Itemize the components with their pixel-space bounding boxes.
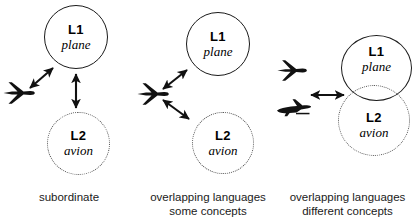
node-l2-subordinate: L2 avion	[47, 112, 110, 175]
caption-line: overlapping languages	[278, 190, 417, 204]
caption-some-concepts: overlapping languages some concepts	[138, 190, 278, 219]
node-l1-some-concepts: L1 plane	[186, 12, 250, 76]
caption-line: different concepts	[278, 204, 417, 218]
airplane-top-view-icon	[2, 80, 36, 106]
caption-subordinate: subordinate	[0, 190, 138, 204]
node-lang-label: L2	[48, 129, 109, 143]
node-l1-different-concepts: L1 plane	[341, 35, 412, 101]
node-lang-label: L2	[193, 129, 253, 143]
caption-line: subordinate	[0, 190, 138, 204]
panel-overlapping-some-concepts: L1 plane L2 avion overlapping languages …	[138, 0, 278, 224]
node-word-label: avion	[193, 144, 253, 158]
node-lang-label: L1	[187, 30, 249, 44]
node-l1-subordinate: L1 plane	[44, 5, 108, 69]
node-lang-label: L1	[342, 45, 411, 59]
node-word-label: plane	[45, 38, 107, 52]
bilingual-model-diagram: L1 plane L2 avion subordinate L1 plane	[0, 0, 417, 224]
airplane-top-view-icon	[136, 81, 170, 107]
caption-different-concepts: overlapping languages different concepts	[278, 190, 417, 219]
node-word-label: avion	[48, 144, 109, 158]
panel-overlapping-different-concepts: L2 avion L1 plane overlapping languages	[278, 0, 417, 224]
panel-subordinate: L1 plane L2 avion subordinate	[0, 0, 138, 224]
node-lang-label: L2	[339, 111, 409, 125]
caption-line: some concepts	[138, 204, 278, 218]
node-lang-label: L1	[45, 23, 107, 37]
node-word-label: plane	[187, 45, 249, 59]
node-word-label: plane	[342, 60, 411, 74]
caption-line: overlapping languages	[138, 190, 278, 204]
airplane-side-view-icon	[274, 96, 314, 118]
node-word-label: avion	[339, 126, 409, 140]
airplane-top-view-icon	[276, 58, 308, 83]
node-l2-some-concepts: L2 avion	[192, 112, 254, 174]
